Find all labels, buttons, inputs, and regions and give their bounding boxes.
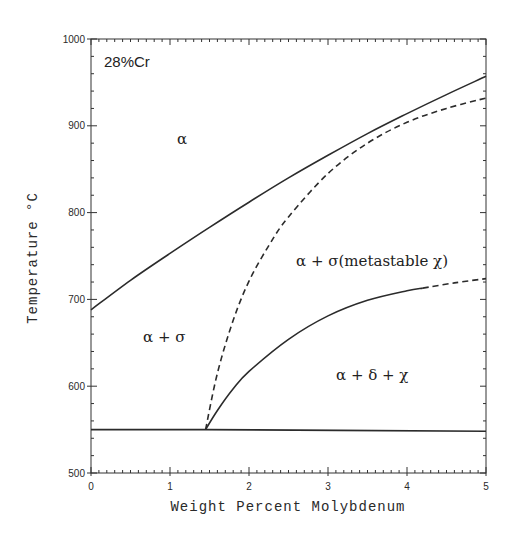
phase-boundary-curve-0 — [91, 76, 486, 309]
y-tick-600: 600 — [68, 381, 85, 392]
x-tick-1: 1 — [167, 481, 173, 492]
phase-boundary-curve-1 — [91, 429, 486, 431]
phase-boundary-curve-4 — [423, 279, 486, 289]
region-label-alpha-sigma: α + σ — [143, 328, 185, 346]
x-tick-3: 3 — [325, 481, 331, 492]
composition-label: 28%Cr — [104, 53, 150, 70]
x-tick-0: 0 — [88, 481, 94, 492]
y-tick-700: 700 — [68, 294, 85, 305]
y-tick-800: 800 — [68, 207, 85, 218]
x-tick-2: 2 — [246, 481, 252, 492]
x-tick-4: 4 — [404, 481, 410, 492]
x-axis-title: Weight Percent Molybdenum — [170, 499, 405, 515]
y-tick-900: 900 — [68, 120, 85, 131]
region-label-alpha-delta-chi: α + δ + χ — [336, 366, 408, 384]
y-tick-1000: 1000 — [63, 34, 86, 45]
phase-diagram: 500 600 700 800 900 1000 0 1 2 3 4 5 Wei… — [0, 0, 517, 552]
region-label-alpha: α — [177, 130, 187, 148]
region-label-metastable: α + σ(metastable χ) — [296, 252, 448, 270]
phase-boundary-curve-3 — [206, 288, 423, 430]
x-tick-5: 5 — [483, 481, 489, 492]
y-axis-title: Temperature °C — [25, 192, 41, 324]
y-tick-500: 500 — [68, 468, 85, 479]
